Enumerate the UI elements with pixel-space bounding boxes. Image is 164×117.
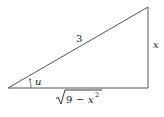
opposite-label: x [153,39,159,50]
adjacent-label: 9 − x 2 [56,90,102,105]
svg-text:9: 9 [66,94,72,105]
angle-label: u [35,76,41,87]
right-triangle [8,7,148,88]
svg-text:2: 2 [95,91,99,99]
triangle-diagram: 3 x u 9 − x 2 [0,0,164,117]
angle-arrow-icon [30,78,32,81]
hypotenuse-label: 3 [76,33,82,44]
svg-text:−: − [76,94,84,105]
svg-text:x: x [88,94,94,105]
